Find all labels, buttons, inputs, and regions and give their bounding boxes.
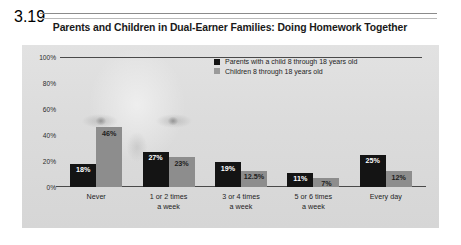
category-label: 5 or 6 timesa week: [278, 192, 348, 211]
bar-group: 19%12.5%: [215, 57, 267, 187]
y-tick-60: 60%: [43, 106, 56, 113]
bar: 18%: [70, 164, 96, 187]
chart-panel: Parents with a child 8 through 18 years …: [22, 45, 439, 228]
bar-value-label: 12.5%: [244, 171, 264, 181]
y-tick-20: 20%: [43, 158, 56, 165]
category-labels: Never1 or 2 timesa week3 or 4 timesa wee…: [60, 192, 422, 211]
y-tick-80: 80%: [43, 80, 56, 87]
bar-value-label: 12%: [392, 171, 406, 181]
bar-group: 27%23%: [143, 57, 195, 187]
bar-value-label: 25%: [366, 155, 380, 165]
plot-area: 100% 80% 60% 40% 20% 0% 18%46%27%23%19%1…: [60, 57, 422, 187]
bar: 19%: [215, 162, 241, 187]
chart-title: Parents and Children in Dual-Earner Fami…: [30, 22, 430, 33]
bar: 7%: [313, 178, 339, 187]
bar: 11%: [287, 173, 313, 187]
category-label: Never: [61, 192, 131, 211]
bar-value-label: 11%: [293, 173, 307, 183]
y-tick-0: 0%: [46, 184, 56, 191]
bar-group: 25%12%: [360, 57, 412, 187]
bar: 46%: [96, 127, 122, 187]
bar-value-label: 46%: [102, 127, 116, 137]
bar-group: 11%7%: [287, 57, 339, 187]
bar-groups: 18%46%27%23%19%12.5%11%7%25%12%: [60, 57, 422, 187]
figure-rule: [40, 13, 437, 19]
bar-value-label: 19%: [221, 162, 235, 172]
category-label: 1 or 2 timesa week: [134, 192, 204, 211]
bar-value-label: 7%: [321, 178, 331, 188]
bar: 12%: [386, 171, 412, 187]
y-tick-40: 40%: [43, 132, 56, 139]
y-tick-100: 100%: [39, 54, 56, 61]
category-label: Every day: [351, 192, 421, 211]
bar-value-label: 27%: [148, 152, 162, 162]
bar-value-label: 18%: [76, 164, 90, 174]
bar: 23%: [169, 157, 195, 187]
bar: 27%: [143, 152, 169, 187]
bar: 12.5%: [241, 171, 267, 187]
bar: 25%: [360, 155, 386, 188]
bar-value-label: 23%: [174, 157, 188, 167]
category-label: 3 or 4 timesa week: [206, 192, 276, 211]
bar-group: 18%46%: [70, 57, 122, 187]
figure-header: 3.19: [14, 8, 451, 22]
